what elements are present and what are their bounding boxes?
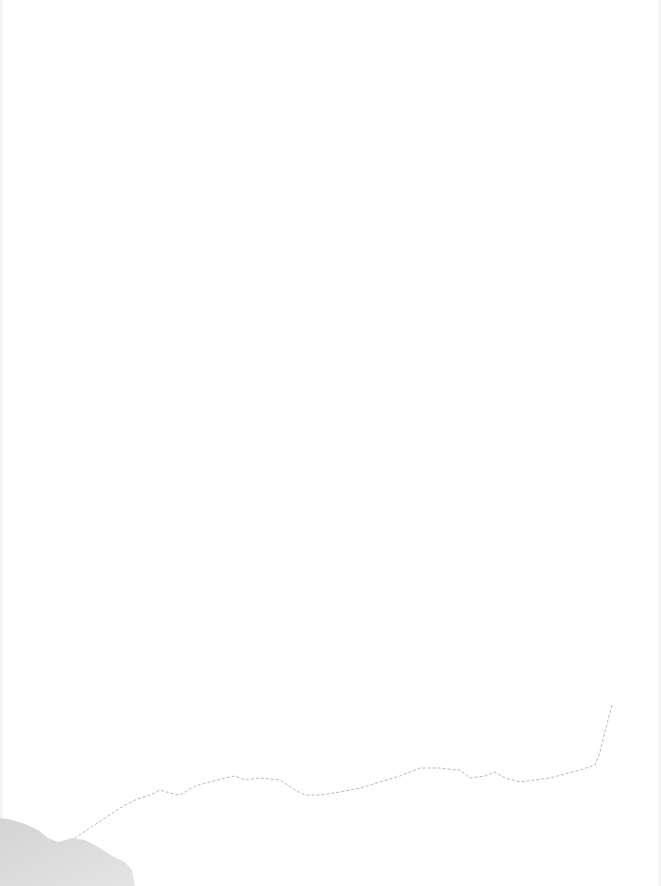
corner-smudge <box>0 810 135 886</box>
blank-page <box>0 0 661 886</box>
torn-edge-line <box>0 0 661 886</box>
